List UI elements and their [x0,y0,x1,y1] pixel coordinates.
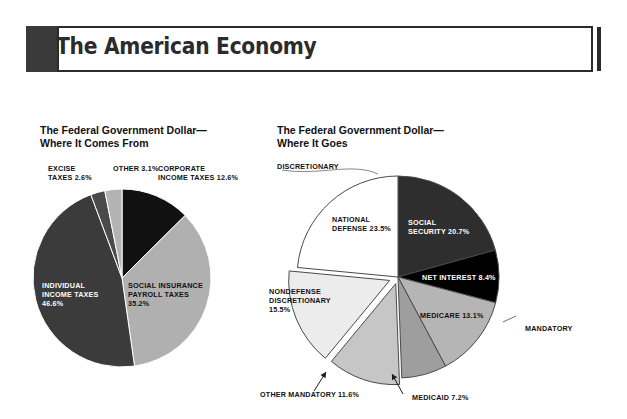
label-mandatory-group: MANDATORY [525,324,573,333]
label-other: OTHER 3.1% [113,164,159,173]
label-corporate-income-taxes: CORPORATE INCOME TAXES 12.6% [158,164,238,182]
label-medicaid: MEDICAID 7.2% [412,393,469,402]
page-title: The American Economy [56,33,317,59]
banner-accent-block [26,26,57,72]
pie-chart-spending-svg [260,150,627,419]
label-social-insurance-payroll-taxes: SOCIAL INSURANCE PAYROLL TAXES 35.2% [128,281,203,309]
label-national-defense: NATIONAL DEFENSE 23.5% [332,215,391,233]
label-medicare: MEDICARE 13.1% [420,311,484,320]
pie-chart-revenue: EXCISE TAXES 2.6%OTHER 3.1%CORPORATE INC… [0,150,280,390]
label-individual-income-taxes: INDIVIDUAL INCOME TAXES 46.6% [42,281,99,309]
label-nondefense-discretionary: NONDEFENSE DISCRETIONARY 15.5% [269,287,331,315]
label-social-security: SOCIAL SECURITY 20.7% [408,218,469,236]
pie-chart-revenue-svg [0,150,280,390]
left-chart-heading: The Federal Government Dollar— Where It … [40,124,207,150]
other-mandatory-arrow-head [321,372,326,378]
label-other-mandatory: OTHER MANDATORY 11.6% [260,390,359,399]
label-discretionary-group: DISCRETIONARY [277,162,339,171]
banner-bar-edge [597,27,601,71]
mandatory-leader-line [503,316,516,322]
label-net-interest: NET INTEREST 8.4% [422,273,496,282]
right-chart-heading: The Federal Government Dollar— Where It … [277,124,444,150]
label-excise-taxes: EXCISE TAXES 2.6% [48,164,92,182]
pie-chart-spending: NATIONAL DEFENSE 23.5%SOCIAL SECURITY 20… [260,150,627,419]
